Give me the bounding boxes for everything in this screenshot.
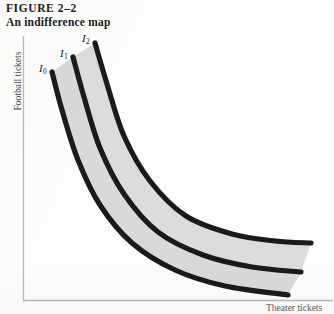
curve-label-i0-subscript: 0 [43, 67, 47, 76]
curve-label-i1-subscript: 1 [64, 52, 68, 61]
x-axis-label: Theater tickets [266, 303, 322, 314]
band-i1-i2 [73, 43, 311, 272]
curve-label-i2: I2 [82, 32, 89, 44]
curve-label-i1: I1 [60, 47, 67, 59]
curve-label-i0: I0 [39, 62, 46, 74]
y-axis-label: Football tickets [13, 27, 23, 135]
curve-label-i2-subscript: 2 [86, 37, 90, 46]
curve-bands-group [52, 43, 311, 295]
figure-page: FIGURE 2–2 An indifference map [0, 0, 334, 314]
indifference-map-plot [0, 0, 334, 314]
